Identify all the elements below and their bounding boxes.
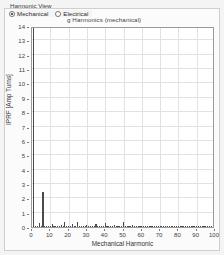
gridline-vertical (197, 28, 198, 227)
x-tick-label: 50 (119, 232, 126, 238)
gridline-horizontal (32, 212, 213, 213)
x-axis-label: Mechanical Harmonic (31, 240, 214, 247)
gridline-vertical (69, 28, 70, 227)
harmonic-view-radio-group: Mechanical Electrical (9, 10, 92, 17)
gridline-vertical (178, 28, 179, 227)
radio-label-mechanical: Mechanical (17, 10, 48, 17)
gridline-horizontal (32, 68, 213, 69)
gridline-horizontal (32, 154, 213, 155)
y-tick-label: 12 (0, 53, 25, 59)
y-tick-label: 4 (0, 168, 25, 174)
y-tick-label: 1 (0, 211, 25, 217)
y-tick-mark (27, 99, 29, 100)
x-tick-label: 70 (156, 232, 163, 238)
y-tick-label: 5 (0, 153, 25, 159)
y-tick-mark (27, 41, 29, 42)
y-tick-mark (27, 27, 29, 28)
gridline-vertical (124, 28, 125, 227)
x-tick-mark (214, 229, 215, 231)
y-tick-mark (27, 228, 29, 229)
bar (42, 192, 43, 227)
x-tick-mark (49, 229, 50, 231)
x-tick-label: 90 (192, 232, 199, 238)
y-tick-mark (27, 128, 29, 129)
radio-option-electrical[interactable]: Electrical (55, 10, 88, 17)
y-tick-mark (27, 185, 29, 186)
chart-title: g Harmonics (mechanical) (67, 16, 141, 23)
x-tick-mark (159, 229, 160, 231)
y-tick-label: 0 (0, 225, 25, 231)
gridline-vertical (160, 28, 161, 227)
gridline-horizontal (32, 183, 213, 184)
radio-label-electrical: Electrical (63, 10, 88, 17)
x-tick-label: 100 (209, 232, 219, 238)
y-tick-mark (27, 113, 29, 114)
x-tick-label: 0 (29, 232, 32, 238)
gridline-vertical (50, 28, 51, 227)
gridline-horizontal (32, 54, 213, 55)
harmonic-view-group-label: Harmonic View (10, 2, 52, 9)
gridline-vertical (142, 28, 143, 227)
x-tick-label: 60 (137, 232, 144, 238)
y-tick-mark (27, 214, 29, 215)
x-tick-mark (177, 229, 178, 231)
gridline-horizontal (32, 197, 213, 198)
gridline-horizontal (32, 169, 213, 170)
x-tick-mark (31, 229, 32, 231)
y-tick-label: 6 (0, 139, 25, 145)
y-tick-mark (27, 142, 29, 143)
x-tick-label: 40 (101, 232, 108, 238)
radio-option-mechanical[interactable]: Mechanical (9, 10, 48, 17)
gridline-vertical (87, 28, 88, 227)
gridline-horizontal (32, 39, 213, 40)
y-tick-mark (27, 56, 29, 57)
x-tick-label: 80 (174, 232, 181, 238)
bar (33, 27, 34, 227)
y-axis-label: IPRF [Amp Turns] (5, 61, 12, 139)
y-tick-mark (27, 199, 29, 200)
x-tick-mark (68, 229, 69, 231)
bar (213, 226, 214, 227)
x-tick-mark (86, 229, 87, 231)
x-tick-mark (141, 229, 142, 231)
y-tick-mark (27, 84, 29, 85)
y-tick-mark (27, 156, 29, 157)
gridline-horizontal (32, 126, 213, 127)
x-tick-mark (196, 229, 197, 231)
x-tick-label: 30 (83, 232, 90, 238)
radio-button-mechanical-icon[interactable] (9, 11, 15, 17)
harmonic-view-window: g Harmonics (mechanical) 012345678910111… (0, 0, 224, 255)
x-tick-mark (123, 229, 124, 231)
y-tick-label: 14 (0, 24, 25, 30)
y-tick-mark (27, 70, 29, 71)
radio-button-electrical-icon[interactable] (55, 11, 61, 17)
gridline-horizontal (32, 97, 213, 98)
plot-area (31, 27, 214, 228)
x-tick-mark (104, 229, 105, 231)
x-tick-label: 10 (46, 232, 53, 238)
y-tick-mark (27, 171, 29, 172)
y-tick-label: 3 (0, 182, 25, 188)
y-tick-label: 2 (0, 196, 25, 202)
x-tick-label: 20 (64, 232, 71, 238)
gridline-vertical (105, 28, 106, 227)
gridline-horizontal (32, 140, 213, 141)
gridline-horizontal (32, 82, 213, 83)
gridline-horizontal (32, 111, 213, 112)
y-tick-label: 13 (0, 38, 25, 44)
